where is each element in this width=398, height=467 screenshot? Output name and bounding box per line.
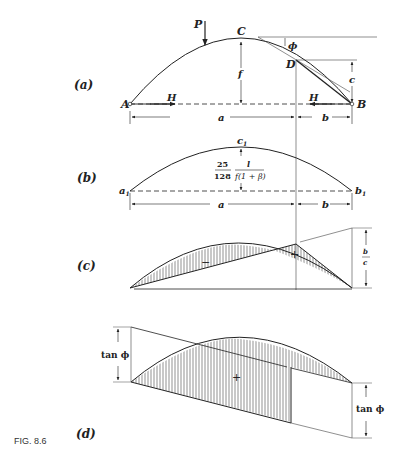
minus-sign: − xyxy=(201,256,210,269)
panel-d-label: (d) xyxy=(76,427,96,441)
left-ordinate-label: tan ϕ xyxy=(101,350,130,360)
plus-sign-d: + xyxy=(232,371,241,384)
panel-d: tan ϕ tan ϕ + (d) xyxy=(76,327,385,441)
span-b-label: b xyxy=(322,112,329,123)
point-a1-label: a1 xyxy=(119,185,130,197)
positive-region-d xyxy=(131,339,352,422)
span-b-label-b: b xyxy=(322,199,329,210)
point-C-label: C xyxy=(237,25,246,38)
right-ordinate-label: tan ϕ xyxy=(356,404,385,414)
span-a-label-b: a xyxy=(218,199,224,210)
panel-b-label: (b) xyxy=(77,171,97,185)
point-c1-label: c1 xyxy=(237,135,247,147)
ratio-den-c: c xyxy=(363,258,368,267)
drop-c-label: c xyxy=(349,74,355,85)
ordinate-den-128: 128 xyxy=(214,171,231,181)
figure-canvas: (a) A B C D P H H f c ϕ a b (b) a1 b1 c1… xyxy=(0,0,398,467)
panel-b: (b) a1 b1 c1 25 128 l f(1 + β) a b xyxy=(77,135,366,210)
chord-DB xyxy=(296,60,352,104)
ordinate-den-f: f(1 + β) xyxy=(234,172,266,181)
angle-phi-label: ϕ xyxy=(288,40,298,51)
panel-c-label: (c) xyxy=(77,259,96,273)
span-a-label: a xyxy=(218,112,224,123)
figure-caption: FIG. 8.6 xyxy=(14,436,47,446)
rise-f-label: f xyxy=(237,68,244,79)
ordinate-num-l: l xyxy=(247,159,250,169)
panel-c: (c) − + b c xyxy=(77,228,372,289)
thrust-left-label: H xyxy=(166,92,177,103)
point-D-label: D xyxy=(285,58,296,71)
support-B xyxy=(350,102,354,106)
ordinate-num-25: 25 xyxy=(217,159,228,169)
load-P-label: P xyxy=(193,18,203,31)
thrust-right-label: H xyxy=(308,92,319,103)
point-A-label: A xyxy=(120,98,130,111)
ratio-num-b: b xyxy=(363,247,368,256)
point-B-label: B xyxy=(356,98,366,111)
tangent-line xyxy=(258,37,350,92)
point-b1-label: b1 xyxy=(355,185,366,197)
panel-a-label: (a) xyxy=(74,78,93,92)
plus-sign-c: + xyxy=(290,248,299,261)
